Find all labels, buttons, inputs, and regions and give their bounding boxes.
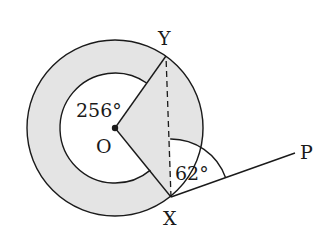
- label-X: X: [163, 207, 177, 229]
- label-Y: Y: [157, 27, 171, 49]
- label-O: O: [96, 135, 112, 157]
- circle-geometry-diagram: Y X O P 256° 62°: [0, 0, 329, 236]
- label-angle-62: 62°: [175, 162, 209, 184]
- label-P: P: [300, 141, 313, 163]
- center-point-O: [112, 125, 118, 131]
- label-angle-256: 256°: [76, 99, 122, 121]
